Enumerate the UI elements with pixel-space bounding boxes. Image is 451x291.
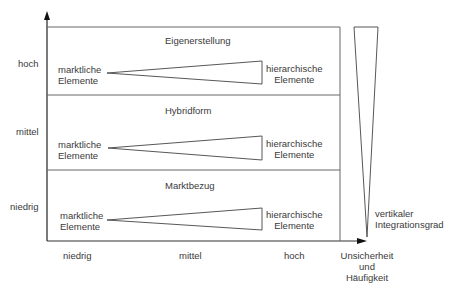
label-line: Elemente: [266, 74, 323, 85]
band-title-marktbezug: Marktbezug: [165, 180, 215, 191]
label-line: Elemente: [60, 221, 103, 232]
label-line: und: [338, 261, 396, 272]
y-tick-hoch: hoch: [18, 58, 39, 69]
triangle-eigenerstellung: [107, 61, 262, 84]
x-axis-label: Unsicherheit und Häufigkeit: [338, 250, 396, 283]
integration-wedge: [354, 27, 378, 237]
band-title-hybridform: Hybridform: [165, 105, 211, 116]
y-axis-arrow-icon: [44, 11, 50, 20]
x-axis-arrow-icon: [357, 238, 367, 244]
wedge-label: vertikaler Integrationsgrad: [375, 208, 444, 230]
label-line: hierarchische: [266, 209, 323, 220]
label-line: Unsicherheit: [338, 250, 396, 261]
band1-left-label: marktliche Elemente: [58, 64, 101, 86]
x-tick-mittel: mittel: [179, 250, 202, 261]
label-line: Integrationsgrad: [375, 219, 444, 230]
y-tick-mittel: mittel: [16, 126, 39, 137]
y-tick-niedrig: niedrig: [10, 201, 39, 212]
band1-right-label: hierarchische Elemente: [266, 63, 323, 85]
band-title-eigenerstellung: Eigenerstellung: [165, 35, 231, 46]
label-line: marktliche: [58, 139, 101, 150]
triangle-hybridform: [108, 136, 262, 160]
label-line: marktliche: [58, 64, 101, 75]
label-line: Häufigkeit: [338, 272, 396, 283]
label-line: Elemente: [58, 75, 101, 86]
label-line: Elemente: [58, 150, 101, 161]
label-line: hierarchische: [266, 63, 323, 74]
band2-left-label: marktliche Elemente: [58, 139, 101, 161]
label-line: vertikaler: [375, 208, 444, 219]
label-line: hierarchische: [266, 138, 323, 149]
x-tick-niedrig: niedrig: [63, 250, 92, 261]
x-tick-hoch: hoch: [284, 250, 305, 261]
label-line: Elemente: [266, 220, 323, 231]
band3-right-label: hierarchische Elemente: [266, 209, 323, 231]
label-line: marktliche: [60, 210, 103, 221]
label-line: Elemente: [266, 149, 323, 160]
band3-left-label: marktliche Elemente: [60, 210, 103, 232]
triangle-marktbezug: [107, 208, 262, 230]
band2-right-label: hierarchische Elemente: [266, 138, 323, 160]
